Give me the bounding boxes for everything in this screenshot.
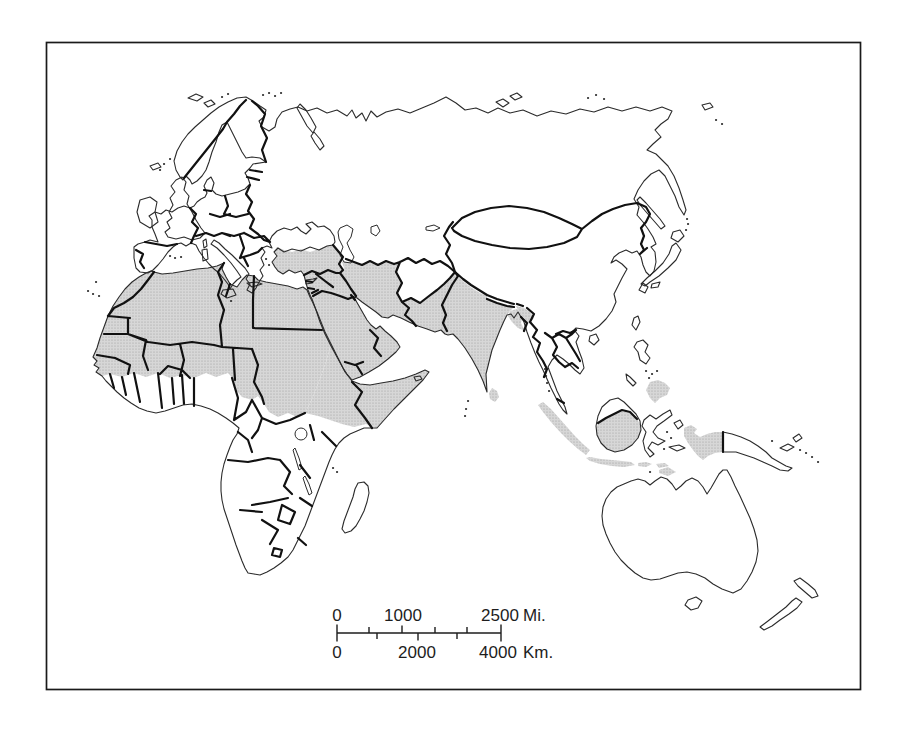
lake-victoria [295,428,307,440]
scale-miles-0: 0 [332,606,341,625]
scale-km-unit: Km. [523,643,553,662]
map-page: 0 1000 2500 Mi. 0 2000 4000 Km. [0,0,913,733]
scale-miles-unit: Mi. [523,606,546,625]
scale-km-2000: 2000 [398,643,436,662]
scale-km-0: 0 [332,643,341,662]
scale-km-4000: 4000 [479,643,517,662]
scale-miles-2500: 2500 [481,606,519,625]
scale-miles-1000: 1000 [384,606,422,625]
world-map-figure: 0 1000 2500 Mi. 0 2000 4000 Km. [0,0,913,733]
